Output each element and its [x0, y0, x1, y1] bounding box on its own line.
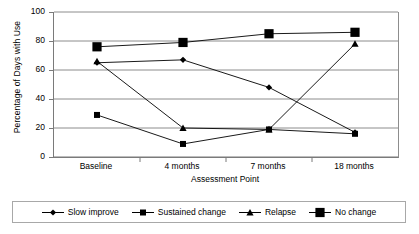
- chart-figure: Percentage of Days with Use 100806040200…: [0, 0, 419, 234]
- data-point-marker: [180, 141, 186, 147]
- data-point-marker: [178, 38, 187, 47]
- legend-label: No change: [335, 207, 376, 217]
- data-point-marker: [350, 28, 359, 37]
- legend-item-no-change[interactable]: No change: [309, 207, 376, 218]
- y-axis-ticks: 100806040200: [0, 0, 50, 234]
- data-point-marker: [93, 58, 100, 65]
- series-slow-improve: [94, 57, 358, 136]
- plot-area: [53, 12, 399, 158]
- series-line: [97, 60, 355, 133]
- y-tick-label: 100: [0, 6, 45, 16]
- y-tick-label: 80: [0, 35, 45, 45]
- series-no-change: [92, 28, 359, 52]
- y-tick-label: 0: [0, 151, 45, 161]
- data-point-marker: [50, 209, 56, 215]
- data-point-marker: [140, 209, 146, 215]
- series-relapse: [93, 40, 358, 132]
- chart-canvas: [54, 12, 398, 157]
- data-point-marker: [246, 208, 253, 215]
- x-tick-label: Baseline: [80, 161, 113, 171]
- data-point-marker: [180, 57, 186, 63]
- x-axis-title: Assessment Point: [53, 174, 397, 184]
- x-tick-label: 4 months: [165, 161, 200, 171]
- series-line: [97, 44, 355, 130]
- legend-marker-icon: [132, 207, 154, 218]
- x-tick-label: 7 months: [251, 161, 286, 171]
- data-point-marker: [94, 112, 100, 118]
- chart-legend: Slow improveSustained changeRelapseNo ch…: [12, 201, 406, 223]
- legend-label: Slow improve: [68, 207, 119, 217]
- x-tick-label: 18 months: [334, 161, 374, 171]
- y-tick-label: 40: [0, 93, 45, 103]
- legend-label: Relapse: [265, 207, 296, 217]
- legend-marker-icon: [42, 207, 64, 218]
- series-line: [97, 115, 355, 144]
- series-sustained-change: [94, 112, 358, 147]
- data-point-marker: [352, 131, 358, 137]
- legend-label: Sustained change: [158, 207, 226, 217]
- data-point-marker: [264, 29, 273, 38]
- series-line: [97, 32, 355, 47]
- x-axis-ticks: Baseline4 months7 months18 months: [53, 161, 397, 175]
- data-point-marker: [92, 42, 101, 51]
- y-tick-label: 60: [0, 64, 45, 74]
- data-point-marker: [266, 84, 272, 90]
- legend-item-sustained-change[interactable]: Sustained change: [132, 207, 226, 218]
- legend-item-relapse[interactable]: Relapse: [239, 207, 296, 218]
- y-tick-label: 20: [0, 122, 45, 132]
- legend-marker-icon: [309, 207, 331, 218]
- data-point-marker: [315, 207, 324, 216]
- legend-marker-icon: [239, 207, 261, 218]
- legend-item-slow-improve[interactable]: Slow improve: [42, 207, 119, 218]
